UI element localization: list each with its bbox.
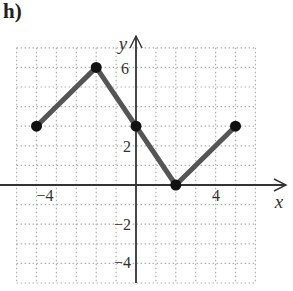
y-tick-2: 2 [123,138,131,155]
y-tick-neg4: −4 [114,254,131,271]
data-point [170,180,181,191]
data-point [230,121,241,132]
data-point [31,121,42,132]
chart: −4 4 6 2 −2 −4 x y [0,0,293,291]
y-tick-6: 6 [121,60,129,77]
y-tick-neg2: −2 [114,216,131,233]
data-point [91,62,102,73]
y-axis-label: y [117,33,128,54]
x-tick-neg4: −4 [36,187,53,204]
x-axis-label: x [274,191,284,212]
x-tick-4: 4 [212,187,220,204]
data-point [131,121,142,132]
